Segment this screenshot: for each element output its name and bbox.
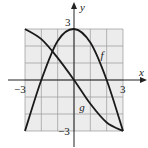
y-tick-max: 3 (65, 16, 71, 28)
y-tick-min: −3 (58, 125, 70, 137)
y-axis-arrow-icon (71, 2, 77, 9)
x-axis-label: x (138, 66, 144, 78)
x-tick-min: −3 (14, 83, 26, 95)
chart-canvas: x y −3 3 3 −3 f g (0, 0, 148, 148)
curve-label-g: g (79, 101, 85, 113)
x-tick-max: 3 (120, 83, 126, 95)
y-axis-label: y (79, 1, 85, 13)
